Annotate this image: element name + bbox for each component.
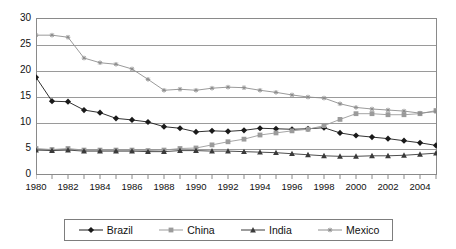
x-tick-label: 1986 — [121, 181, 142, 192]
legend-label: Brazil — [107, 225, 133, 236]
x-tick-label: 1994 — [249, 181, 270, 192]
x-axis: 1980198219841986198819901992199419961998… — [0, 181, 456, 195]
x-tick-label: 1990 — [185, 181, 206, 192]
x-tick-label: 2004 — [409, 181, 430, 192]
legend-item-mexico[interactable]: Mexico — [317, 225, 379, 236]
series-india — [36, 147, 437, 159]
y-tick-label: 0 — [0, 169, 31, 179]
asterisk-marker-icon — [317, 225, 343, 235]
legend-item-india[interactable]: India — [240, 225, 292, 236]
x-tick-label: 1998 — [313, 181, 334, 192]
series-mexico — [36, 33, 437, 116]
series-layer — [36, 18, 437, 175]
diamond-marker-icon — [78, 225, 104, 235]
series-brazil — [36, 74, 437, 148]
y-tick-label: 25 — [0, 39, 31, 49]
y-tick-label: 10 — [0, 117, 31, 127]
x-tick-label: 1984 — [89, 181, 110, 192]
x-tick-label: 1980 — [25, 181, 46, 192]
x-tick-label: 2002 — [377, 181, 398, 192]
x-tick-label: 1996 — [281, 181, 302, 192]
x-tick-label: 1982 — [57, 181, 78, 192]
square-marker-icon — [158, 225, 184, 235]
chart-legend: BrazilChinaIndiaMexico — [64, 219, 393, 241]
legend-label: China — [187, 225, 214, 236]
x-axis-ticks — [36, 175, 437, 180]
legend-label: India — [269, 225, 292, 236]
y-tick-label: 15 — [0, 91, 31, 101]
legend-label: Mexico — [346, 225, 379, 236]
triangle-marker-icon — [240, 225, 266, 235]
legend-item-brazil[interactable]: Brazil — [78, 225, 133, 236]
x-tick-label: 1988 — [153, 181, 174, 192]
y-tick-label: 5 — [0, 143, 31, 153]
legend-item-china[interactable]: China — [158, 225, 214, 236]
x-tick-label: 2000 — [345, 181, 366, 192]
y-tick-label: 20 — [0, 65, 31, 75]
y-tick-label: 30 — [0, 13, 31, 23]
line-chart: 051015202530 198019821984198619881990199… — [0, 0, 456, 249]
x-tick-label: 1992 — [217, 181, 238, 192]
